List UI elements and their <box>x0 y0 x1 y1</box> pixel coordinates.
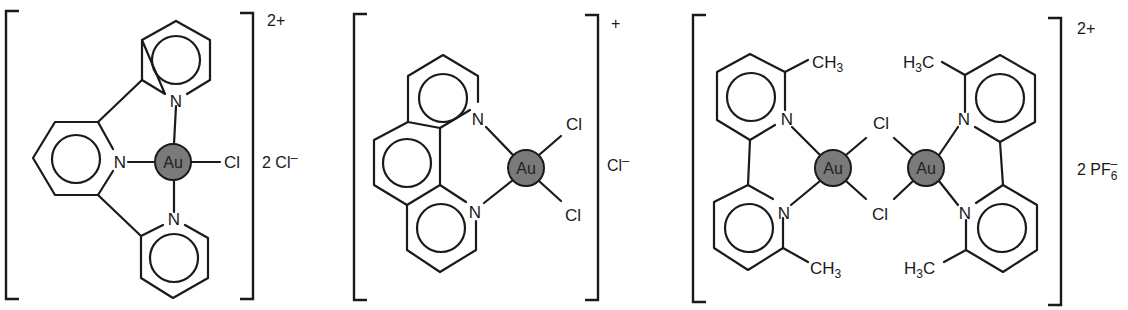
atom-n: N <box>959 204 971 223</box>
atom-n: N <box>114 153 126 172</box>
pyridine-ring-center <box>33 122 113 195</box>
bond <box>98 80 142 122</box>
charge-label: + <box>611 15 620 32</box>
complex-1: N N N Cl Au 2+ 2 Cl– <box>6 11 298 299</box>
atom-cl: Cl <box>566 115 582 134</box>
bond <box>98 195 141 236</box>
left-bracket <box>354 14 367 300</box>
atom-cl-bridge: Cl <box>872 205 888 224</box>
atom-n: N <box>168 210 180 229</box>
benzene-ring-middle <box>374 122 440 205</box>
methyl-label: CH3 <box>810 259 842 281</box>
complex-3: N N N N Cl Cl CH3 CH3 H3C H3C Au Au 2+ 2… <box>693 15 1118 305</box>
charge-label: 2+ <box>1077 20 1095 37</box>
pyridine-ring-lower-left <box>714 185 783 270</box>
counterion-label: Cl– <box>607 153 630 174</box>
right-bracket <box>585 15 598 300</box>
counterion-label: 2 PF6– <box>1077 157 1118 183</box>
atom-cl: Cl <box>565 206 581 225</box>
left-bracket <box>693 15 706 302</box>
pyridine-ring-upper-right <box>965 55 1035 142</box>
pyridine-ring-upper-left <box>717 54 785 140</box>
counterion-label: 2 Cl– <box>262 150 298 171</box>
atom-n: N <box>778 204 790 223</box>
complex-2: N N Cl Cl Au + Cl– <box>354 14 630 300</box>
methyl-label: H3C <box>903 53 934 75</box>
pyridine-ring-lower-right <box>966 185 1037 272</box>
left-bracket <box>6 11 19 299</box>
right-bracket <box>1048 18 1061 305</box>
methyl-label: H3C <box>904 259 935 281</box>
atom-n: N <box>170 92 182 111</box>
atom-n: N <box>472 110 484 129</box>
pyridine-ring-upper <box>408 55 478 128</box>
methyl-label: CH3 <box>812 53 844 75</box>
right-bracket <box>240 13 253 299</box>
pyridine-ring-bottom <box>141 225 208 298</box>
atom-n: N <box>958 110 970 129</box>
atom-n: N <box>781 110 793 129</box>
atom-n: N <box>469 203 481 222</box>
charge-label: 2+ <box>267 12 285 29</box>
atom-cl: Cl <box>224 153 240 172</box>
pyridine-ring-top <box>142 21 210 94</box>
complexes-figure: N N N Cl Au 2+ 2 Cl– <box>0 0 1128 310</box>
gold-atom-label: Au <box>516 160 536 177</box>
gold-atom-label: Au <box>163 154 183 171</box>
gold-atom-label: Au <box>823 160 843 177</box>
atom-cl-bridge: Cl <box>873 114 889 133</box>
gold-atom-label: Au <box>916 160 936 177</box>
